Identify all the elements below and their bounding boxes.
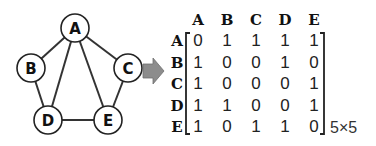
column-header-e: E: [308, 11, 319, 29]
matrix-cell-e-e: 0: [309, 117, 318, 136]
matrix-cell-c-d: 0: [280, 74, 289, 93]
matrix-cell-a-b: 1: [222, 31, 231, 50]
node-label: A: [69, 20, 81, 38]
adjacency-matrix: ABCDE ABCDE 0111110010100011100110110 5×…: [170, 11, 357, 136]
matrix-cell-d-b: 1: [222, 96, 231, 115]
matrix-cell-b-c: 0: [251, 53, 260, 72]
graph-to-matrix-diagram: ABCDE ABCDE ABCDE 0111110010100011100110…: [0, 0, 376, 146]
column-header-a: A: [191, 11, 204, 29]
row-header-b: B: [171, 54, 184, 72]
matrix-row-headers: ABCDE: [170, 32, 183, 136]
column-header-d: D: [278, 11, 291, 29]
matrix-cell-b-e: 0: [309, 53, 318, 72]
matrix-cells: 0111110010100011100110110: [193, 31, 318, 136]
node-label: C: [122, 60, 133, 78]
matrix-right-bracket: [320, 33, 324, 134]
row-header-c: C: [171, 75, 183, 93]
matrix-cell-b-a: 1: [193, 53, 202, 72]
matrix-cell-d-c: 0: [251, 96, 260, 115]
matrix-cell-d-a: 1: [193, 96, 202, 115]
matrix-cell-b-b: 0: [222, 53, 231, 72]
matrix-cell-d-e: 1: [309, 96, 318, 115]
matrix-column-headers: ABCDE: [191, 11, 320, 29]
matrix-left-bracket: [186, 33, 190, 134]
node-c: C: [114, 54, 142, 82]
matrix-cell-d-d: 0: [280, 96, 289, 115]
matrix-cell-c-b: 0: [222, 74, 231, 93]
node-e: E: [94, 106, 122, 134]
matrix-cell-e-d: 1: [280, 117, 289, 136]
matrix-cell-b-d: 1: [280, 53, 289, 72]
row-header-d: D: [170, 97, 183, 115]
node-d: D: [34, 106, 62, 134]
node-label: D: [42, 112, 54, 130]
node-a: A: [61, 14, 89, 42]
matrix-dimensions-label: 5×5: [330, 119, 357, 136]
column-header-b: B: [221, 11, 234, 29]
matrix-cell-e-a: 1: [193, 117, 202, 136]
row-header-e: E: [171, 118, 182, 136]
matrix-cell-a-a: 0: [193, 31, 202, 50]
node-b: B: [17, 54, 45, 82]
node-label: B: [25, 60, 36, 78]
matrix-cell-c-a: 1: [193, 74, 202, 93]
matrix-cell-a-e: 1: [309, 31, 318, 50]
matrix-cell-a-d: 1: [280, 31, 289, 50]
node-label: E: [103, 112, 113, 130]
matrix-cell-a-c: 1: [251, 31, 260, 50]
right-arrow-icon: [143, 58, 164, 84]
matrix-cell-c-e: 1: [309, 74, 318, 93]
matrix-cell-e-b: 0: [222, 117, 231, 136]
row-header-a: A: [170, 32, 183, 50]
matrix-cell-c-c: 0: [251, 74, 260, 93]
matrix-cell-e-c: 1: [251, 117, 260, 136]
graph-nodes: ABCDE: [17, 14, 142, 134]
column-header-c: C: [250, 11, 262, 29]
